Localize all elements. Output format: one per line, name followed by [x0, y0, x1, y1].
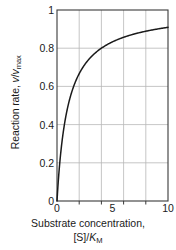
x-axis-label: Substrate concentration, [S]/KM: [0, 216, 176, 246]
x-axis-label-prefix: [S]/: [73, 231, 89, 243]
x-axis-label-line1: Substrate concentration,: [31, 217, 145, 229]
x-tick-label-0: 0: [54, 203, 60, 214]
x-tick-label-5: 5: [110, 203, 116, 214]
x-axis-tick-labels: 0 5 10: [0, 203, 176, 217]
michaelis-menten-chart: Reaction rate, v/vmax 1 0.8 0.6 0.4 0.2 …: [0, 0, 176, 250]
x-tick-label-10: 10: [162, 203, 174, 214]
x-axis-label-subscript: M: [96, 236, 102, 245]
plot-background: [57, 10, 168, 201]
x-axis-label-line2: [S]/KM: [0, 230, 176, 246]
